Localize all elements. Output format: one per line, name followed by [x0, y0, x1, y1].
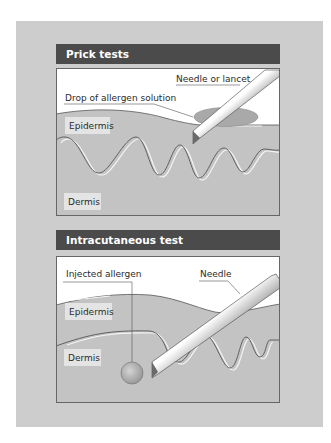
label-injected-allergen: Injected allergen [66, 269, 142, 279]
label-dermis: Dermis [68, 197, 100, 207]
label-epidermis: Epidermis [69, 307, 114, 317]
label-epidermis: Epidermis [69, 121, 114, 131]
prick-test-illustration: Needle or lancet Drop of allergen soluti… [56, 66, 280, 217]
label-needle-or-lancet: Needle or lancet [176, 74, 251, 84]
label-dermis: Dermis [68, 353, 100, 363]
panel-title-intracutaneous-test: Intracutaneous test [56, 230, 280, 250]
panel-title-prick-tests: Prick tests [56, 44, 280, 64]
label-drop-of-allergen: Drop of allergen solution [65, 93, 176, 103]
intracutaneous-test-illustration: Injected allergen Needle Epidermis Dermi… [56, 252, 280, 404]
injected-allergen-bleb [121, 362, 143, 384]
label-needle: Needle [200, 269, 232, 279]
